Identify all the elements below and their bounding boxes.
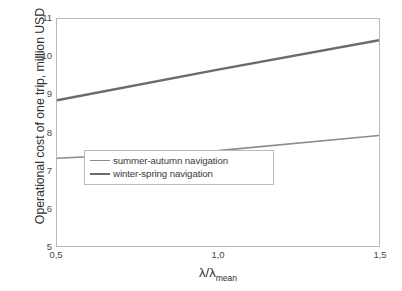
series-line <box>57 40 379 100</box>
legend-line-swatch <box>90 173 110 175</box>
y-axis-tick-label: 9 <box>30 88 52 99</box>
x-axis-title-main: λ/λ <box>199 265 216 280</box>
y-axis-tick-labels: 567891011 <box>28 0 52 291</box>
chart-figure: Operational cost of one trip, million US… <box>0 0 402 291</box>
chart-legend: summer-autumn navigationwinter-spring na… <box>84 150 274 185</box>
plot-area <box>56 18 380 247</box>
x-axis-tick-label: 1,5 <box>360 249 400 260</box>
x-axis-title: λ/λmean <box>56 265 380 283</box>
legend-item-label: summer-autumn navigation <box>113 155 228 166</box>
y-axis-tick-label: 6 <box>30 203 52 214</box>
y-axis-tick-label: 10 <box>30 50 52 61</box>
y-axis-tick-label: 7 <box>30 165 52 176</box>
plot-lines <box>57 19 379 246</box>
x-axis-tick-label: 0,5 <box>36 249 76 260</box>
legend-item: summer-autumn navigation <box>90 154 268 167</box>
y-axis-tick-label: 8 <box>30 127 52 138</box>
x-axis-title-subscript: mean <box>216 273 237 283</box>
legend-item-label: winter-spring navigation <box>113 168 213 179</box>
legend-line-swatch <box>90 160 110 161</box>
x-axis-tick-label: 1,0 <box>198 249 238 260</box>
legend-item: winter-spring navigation <box>90 167 268 180</box>
x-axis-tick-labels: 0,51,01,5 <box>56 249 380 265</box>
y-axis-tick-label: 11 <box>30 12 52 23</box>
